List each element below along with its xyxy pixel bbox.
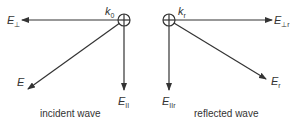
wave-diagram (0, 0, 297, 124)
e-perp-r-label: E⊥r (274, 15, 290, 28)
e-arrow (28, 20, 124, 89)
k0-sub: 0 (111, 12, 115, 19)
e-par-r-sub: IIr (169, 102, 175, 109)
e-perp-sub: ⊥ (14, 21, 20, 28)
e-parallel-label: EII (118, 96, 129, 109)
k-into-page-icon (118, 14, 130, 26)
reflected-wave-caption: reflected wave (194, 108, 258, 119)
k0-label: k0 (105, 6, 114, 19)
e-perp-r-sub: ⊥r (281, 21, 289, 28)
k-r-into-page-icon (163, 14, 175, 26)
incident-wave-vectors (22, 14, 130, 90)
reflected-wave-vectors (163, 14, 272, 90)
e-perp-label: E⊥ (7, 15, 20, 28)
kr-label: kr (178, 6, 186, 19)
e-main: E (17, 76, 24, 88)
e-r-label: Er (271, 76, 281, 89)
e-label: E (17, 77, 24, 88)
e-parallel-r-label: EIIr (162, 96, 176, 109)
kr-sub: r (184, 12, 186, 19)
e-r-sub: r (278, 82, 280, 89)
incident-wave-caption: incident wave (40, 108, 101, 119)
e-r-arrow (169, 20, 266, 79)
e-par-sub: II (125, 102, 129, 109)
